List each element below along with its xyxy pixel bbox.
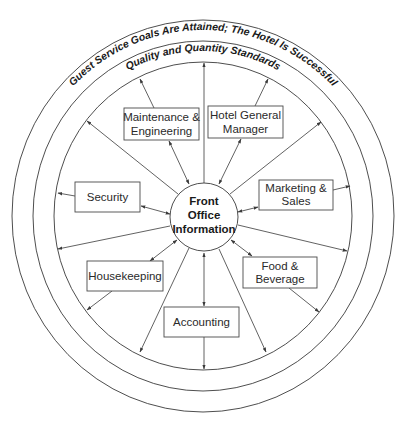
- box-marketing-sales: Marketing & Sales: [259, 180, 333, 210]
- box-label: Security: [87, 191, 129, 203]
- box-label-line-1: Marketing &: [265, 182, 327, 194]
- box-label-line-1: Maintenance &: [123, 111, 200, 123]
- box-label-line-2: Beverage: [255, 273, 304, 285]
- hub-front-office-information: Front Office Information: [170, 183, 238, 251]
- box-label-line-1: Hotel General: [210, 109, 281, 121]
- box-label-line-2: Engineering: [131, 125, 192, 137]
- inner-ring-label: Quality and Quantity Standards: [123, 41, 283, 72]
- box-label-line-1: Food &: [261, 260, 298, 272]
- box-label-line-2: Sales: [282, 195, 311, 207]
- outer-ring-label: Guest Service Goals Are Attained; The Ho…: [66, 20, 341, 89]
- box-label: Accounting: [173, 316, 230, 328]
- hub-label-line-2: Office: [188, 209, 221, 221]
- box-food-beverage: Food & Beverage: [243, 257, 317, 288]
- box-security: Security: [75, 182, 140, 212]
- box-hotel-general-manager: Hotel General Manager: [208, 106, 283, 138]
- front-office-wheel-diagram: Guest Service Goals Are Attained; The Ho…: [0, 0, 404, 425]
- box-accounting: Accounting: [164, 307, 239, 337]
- box-maintenance-engineering: Maintenance & Engineering: [123, 108, 200, 140]
- box-housekeeping: Housekeeping: [87, 261, 163, 291]
- box-label: Housekeeping: [88, 270, 162, 282]
- box-label-line-2: Manager: [223, 123, 269, 135]
- hub-label-line-1: Front: [189, 195, 219, 207]
- hub-label-line-3: Information: [172, 223, 235, 235]
